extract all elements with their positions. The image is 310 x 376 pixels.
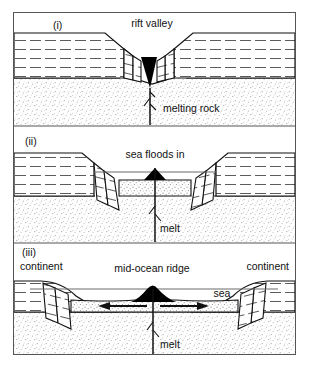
diagram-canvas: (i) rift valley melting rock (ii) sea fl… [0, 0, 310, 376]
melting-rock-label: melting rock [163, 102, 220, 114]
figure-caption [0, 362, 310, 376]
left-crust-block-i [14, 33, 124, 78]
rift-valley-label: rift valley [131, 17, 173, 29]
rifting-sequence-figure: (i) rift valley melting rock (ii) sea fl… [0, 0, 310, 376]
panel-number-i: (i) [53, 19, 62, 31]
right-crust-block-i [174, 33, 295, 78]
left-continent-block-ii [14, 153, 94, 196]
fault-block-left-inner2-i [133, 56, 141, 82]
fault-block-right-inner2-i [157, 56, 165, 82]
mantle-stipple-i [14, 78, 295, 125]
panel-number-ii: (ii) [25, 135, 37, 147]
continent-label-left: continent [20, 260, 63, 272]
melt-label-ii: melt [160, 222, 180, 234]
right-continent-block-ii [216, 153, 295, 196]
sea-label: sea [214, 287, 231, 299]
panel-iii-graphic [14, 281, 295, 354]
melt-label-iii: melt [160, 338, 180, 350]
sea-floods-in-label: sea floods in [126, 148, 185, 160]
continent-label-right: continent [246, 260, 289, 272]
mid-ocean-ridge-label: mid-ocean ridge [114, 262, 189, 274]
panel-number-iii: (iii) [22, 246, 36, 258]
